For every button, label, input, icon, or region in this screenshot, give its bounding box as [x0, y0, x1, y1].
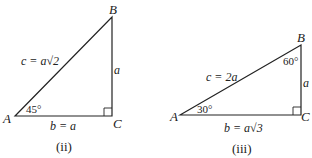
angle-a-label: 45°: [26, 104, 41, 115]
vertical-side-label: a: [114, 64, 120, 76]
figure-caption: (ii): [56, 140, 72, 153]
angle-a-label: 30°: [197, 104, 212, 115]
hypotenuse-label: c = 2a: [206, 71, 237, 83]
vertex-a-label: A: [170, 110, 178, 123]
triangle-diagrams: [0, 0, 312, 158]
base-label: b = a: [50, 120, 76, 132]
vertex-c-label: C: [301, 110, 310, 123]
vertex-c-label: C: [113, 117, 122, 130]
hypotenuse-label: c = a√2: [21, 55, 59, 67]
angle-b-label: 60°: [283, 56, 298, 67]
base-label: b = a√3: [224, 122, 263, 134]
vertex-b-label: B: [109, 3, 117, 16]
vertex-b-label: B: [297, 31, 305, 44]
vertical-side-label: a: [303, 77, 309, 89]
figure-caption: (iii): [232, 142, 252, 155]
vertex-a-label: A: [3, 112, 11, 125]
